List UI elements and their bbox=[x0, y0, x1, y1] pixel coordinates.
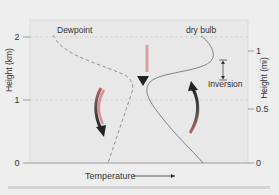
left-tick-label-1: 1 bbox=[14, 95, 19, 105]
right-tick-label-0.5: 0.5 bbox=[256, 104, 269, 114]
left-tick-label-2: 2 bbox=[14, 32, 19, 42]
left-axis-label: Height (km) bbox=[4, 48, 14, 92]
inversion-label: Inversion bbox=[208, 79, 243, 89]
plot-area bbox=[30, 20, 248, 163]
dewpoint-label: Dewpoint bbox=[57, 25, 93, 35]
right-axis-label: Height (mi) bbox=[259, 57, 269, 99]
drybulb-label: dry bulb bbox=[186, 25, 217, 35]
sounding-diagram: 2 1 0 Height (km) 1 0.5 0 Height (mi) Te… bbox=[0, 0, 279, 195]
left-tick-label-0: 0 bbox=[14, 158, 19, 168]
x-axis-arrow-head bbox=[171, 174, 175, 178]
right-tick-label-1: 1 bbox=[256, 46, 261, 56]
right-tick-label-0: 0 bbox=[256, 158, 261, 168]
x-axis-label: Temperature bbox=[85, 171, 136, 181]
